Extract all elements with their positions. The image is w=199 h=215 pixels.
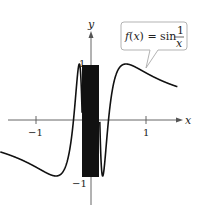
callout-frac-num: 1: [177, 24, 184, 37]
y-axis-arrow-icon: [89, 31, 94, 38]
x-tick-label-1: 1: [143, 127, 149, 138]
y-axis-label: y: [87, 18, 95, 31]
chart-plot: x y −1 1 1 −1 f(x) = sin 1 x: [0, 0, 199, 215]
callout-frac-den: x: [176, 37, 183, 50]
callout-lhs: f(x) = sin: [124, 30, 176, 43]
oscillation-band: [82, 65, 99, 177]
function-callout: f(x) = sin 1 x: [121, 22, 187, 68]
x-axis-label: x: [185, 114, 192, 127]
y-tick-label-neg1: −1: [72, 178, 87, 189]
x-tick-label-neg1: −1: [28, 127, 43, 138]
x-axis-arrow-icon: [176, 118, 183, 123]
